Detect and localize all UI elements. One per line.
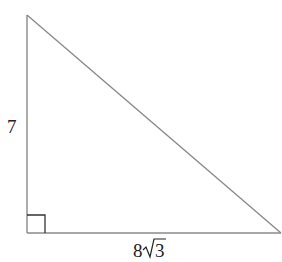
horizontal-leg-coefficient: 8: [133, 240, 143, 261]
horizontal-leg-radicand: 3: [155, 240, 165, 261]
right-angle-marker: [27, 215, 45, 233]
hypotenuse: [27, 15, 281, 233]
horizontal-leg-label: 8 3: [133, 239, 166, 261]
vertical-leg-label: 7: [7, 116, 17, 137]
triangle-diagram: 7 8 3: [0, 0, 282, 262]
